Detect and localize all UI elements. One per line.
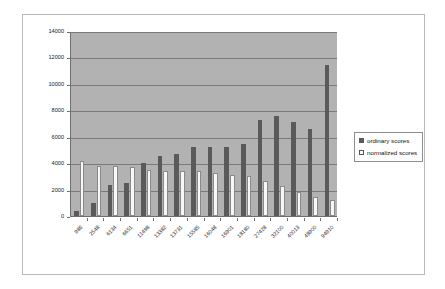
bar-normalized-scores <box>330 200 335 216</box>
gridline <box>71 111 337 112</box>
bar-ordinary-scores <box>158 156 163 216</box>
bar-ordinary-scores <box>224 147 229 216</box>
x-axis-tick-mark <box>320 218 321 221</box>
bar-ordinary-scores <box>258 120 263 216</box>
bar-ordinary-scores <box>241 144 246 216</box>
gridline <box>71 85 337 86</box>
bar-normalized-scores <box>197 171 202 216</box>
bar-normalized-scores <box>147 170 152 216</box>
bar-normalized-scores <box>130 167 135 216</box>
bar-normalized-scores <box>230 175 235 216</box>
bar-normalized-scores <box>280 186 285 216</box>
x-axis-tick-mark <box>254 218 255 221</box>
y-axis-tick-label: 0 <box>20 214 64 220</box>
bar-normalized-scores <box>313 197 318 216</box>
gridline <box>71 58 337 59</box>
x-axis-tick-mark <box>103 218 104 221</box>
x-axis-tick-mark <box>87 218 88 221</box>
y-axis-tick-label: 8000 <box>20 108 64 114</box>
x-axis-tick-mark <box>137 218 138 221</box>
plot-area <box>70 32 337 217</box>
gridline <box>71 32 337 33</box>
bar-normalized-scores <box>297 192 302 216</box>
legend-label-ordinary-scores: ordinary scores <box>367 137 409 145</box>
bar-ordinary-scores <box>208 147 213 216</box>
bar-ordinary-scores <box>124 183 129 216</box>
x-axis-tick-mark <box>170 218 171 221</box>
gridline <box>71 164 337 165</box>
y-axis-tick-label: 12000 <box>20 56 64 62</box>
bar-ordinary-scores <box>174 154 179 216</box>
bar-normalized-scores <box>163 171 168 216</box>
gridline <box>71 138 337 139</box>
bar-ordinary-scores <box>291 122 296 216</box>
x-axis-tick-mark <box>120 218 121 221</box>
legend-label-normalized-scores: normalized scores <box>367 149 417 157</box>
x-axis-tick-mark <box>220 218 221 221</box>
x-axis-tick-mark <box>337 218 338 221</box>
bar-normalized-scores <box>80 161 85 216</box>
y-axis-tick-label: 6000 <box>20 135 64 141</box>
filled-square-icon <box>359 138 364 143</box>
x-axis-tick-mark <box>304 218 305 221</box>
bar-normalized-scores <box>263 181 268 216</box>
chart-legend: ordinary scores normalized scores <box>354 132 423 162</box>
bar-ordinary-scores <box>308 129 313 216</box>
empty-square-icon <box>359 150 364 155</box>
bar-ordinary-scores <box>325 65 330 216</box>
x-axis-tick-mark <box>237 218 238 221</box>
x-axis-tick-mark <box>287 218 288 221</box>
x-axis-tick-mark <box>153 218 154 221</box>
y-axis-tick-label: 10000 <box>20 82 64 88</box>
x-axis-tick-mark <box>204 218 205 221</box>
y-axis-tick-label: 2000 <box>20 188 64 194</box>
bar-ordinary-scores <box>74 211 79 216</box>
bar-ordinary-scores <box>191 147 196 216</box>
y-axis-tick-mark <box>67 217 70 218</box>
bar-normalized-scores <box>113 166 118 216</box>
x-axis-tick-mark <box>187 218 188 221</box>
bar-ordinary-scores <box>274 116 279 216</box>
bar-normalized-scores <box>180 171 185 216</box>
bar-ordinary-scores <box>108 185 113 216</box>
y-axis-tick-label: 4000 <box>20 161 64 167</box>
bar-ordinary-scores <box>141 163 146 216</box>
legend-item-normalized-scores: normalized scores <box>359 149 417 157</box>
x-axis-tick-mark <box>270 218 271 221</box>
legend-item-ordinary-scores: ordinary scores <box>359 137 417 145</box>
bar-normalized-scores <box>247 176 252 216</box>
y-axis-tick-label: 14000 <box>20 29 64 35</box>
bar-ordinary-scores <box>91 203 96 216</box>
chart-frame: 02000400060008000100001200014000 9862548… <box>22 14 425 275</box>
bar-normalized-scores <box>213 173 218 216</box>
bar-normalized-scores <box>97 166 102 216</box>
